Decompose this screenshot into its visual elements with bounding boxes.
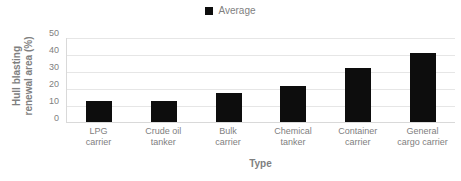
x-tick-crude-oil-tanker: Crude oil tanker xyxy=(131,126,196,148)
x-tick-general-cargo-carrier-line1: General xyxy=(391,126,454,137)
y-axis-tick-labels: 50 40 30 20 10 0 xyxy=(40,33,62,127)
x-axis-tick-labels: LPG carrier Crude oil tanker Bulk carrie… xyxy=(66,126,455,148)
y-tick-50: 50 xyxy=(49,29,59,38)
x-tick-general-cargo-carrier: General cargo carrier xyxy=(390,126,455,148)
bar-bulk-carrier[interactable] xyxy=(216,93,242,122)
x-tick-bulk-carrier: Bulk carrier xyxy=(196,126,261,148)
x-tick-crude-oil-tanker-line1: Crude oil xyxy=(132,126,195,137)
y-axis-title-line1: Hull blasting xyxy=(11,46,22,106)
legend-label-average: Average xyxy=(218,6,255,16)
x-tick-lpg-carrier: LPG carrier xyxy=(66,126,131,148)
y-tick-40: 40 xyxy=(49,46,59,55)
plot-area xyxy=(66,38,455,123)
y-tick-10: 10 xyxy=(49,97,59,106)
bar-slot-bulk-carrier xyxy=(196,38,261,122)
bar-slot-crude-oil-tanker xyxy=(132,38,197,122)
x-tick-container-carrier-line2: carrier xyxy=(326,137,389,148)
y-tick-30: 30 xyxy=(49,63,59,72)
x-tick-crude-oil-tanker-line2: tanker xyxy=(132,137,195,148)
y-axis-title-line2: renewal area (%) xyxy=(23,37,35,116)
bar-slot-lpg-carrier xyxy=(67,38,132,122)
y-tick-0: 0 xyxy=(54,114,59,123)
legend-square-icon xyxy=(205,7,213,15)
chart-legend: Average xyxy=(0,6,461,16)
x-tick-container-carrier-line1: Container xyxy=(326,126,389,137)
bar-slot-container-carrier xyxy=(326,38,391,122)
x-tick-lpg-carrier-line2: carrier xyxy=(67,137,130,148)
x-tick-bulk-carrier-line1: Bulk xyxy=(197,126,260,137)
x-tick-lpg-carrier-line1: LPG xyxy=(67,126,130,137)
bar-series-average xyxy=(67,38,455,122)
bar-chart-figure: Average Hull blasting renewal area (%) 5… xyxy=(0,0,461,181)
bar-container-carrier[interactable] xyxy=(345,68,371,122)
legend-item-average: Average xyxy=(205,6,255,16)
x-axis-line xyxy=(67,122,455,123)
x-tick-container-carrier: Container carrier xyxy=(325,126,390,148)
x-axis-title: Type xyxy=(66,158,455,169)
x-tick-general-cargo-carrier-line2: cargo carrier xyxy=(391,137,454,148)
y-tick-20: 20 xyxy=(49,80,59,89)
y-axis-title: Hull blasting renewal area (%) xyxy=(6,28,40,124)
bar-general-cargo-carrier[interactable] xyxy=(410,53,436,122)
bar-slot-general-cargo-carrier xyxy=(390,38,455,122)
x-tick-chemical-tanker-line1: Chemical tanker xyxy=(261,126,324,148)
bar-slot-chemical-tanker xyxy=(261,38,326,122)
bar-chemical-tanker[interactable] xyxy=(280,86,306,122)
bar-crude-oil-tanker[interactable] xyxy=(151,101,177,122)
x-tick-bulk-carrier-line2: carrier xyxy=(197,137,260,148)
bar-lpg-carrier[interactable] xyxy=(86,101,112,122)
x-tick-chemical-tanker: Chemical tanker xyxy=(260,126,325,148)
